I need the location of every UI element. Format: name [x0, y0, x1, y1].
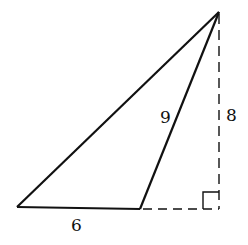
label-8: 8 — [226, 105, 237, 125]
diagram-canvas: 9 8 6 — [0, 0, 248, 245]
label-9: 9 — [160, 107, 171, 127]
side-right-9 — [140, 12, 219, 209]
side-left-long — [17, 12, 219, 207]
triangle-diagram: 9 8 6 — [0, 0, 248, 245]
right-angle-marker — [203, 192, 219, 209]
side-base-6 — [17, 207, 140, 209]
label-6: 6 — [71, 215, 82, 235]
